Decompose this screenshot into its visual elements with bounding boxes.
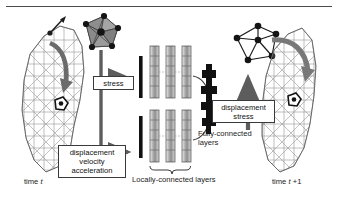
stress-input-box: stress: [93, 76, 134, 90]
lower-locally-connected-columns: [150, 110, 191, 162]
fully-connected-layers-label: Fully-connected layers: [198, 129, 252, 147]
layer-column: [150, 46, 159, 98]
input-feature-acceleration: acceleration: [62, 166, 122, 175]
upper-input-bar: [139, 56, 143, 98]
feature-flow-arrows: [101, 50, 128, 152]
layer-column: [150, 110, 159, 162]
input-features-box: displacement velocity acceleration: [58, 145, 126, 178]
outline-node-graph: [234, 23, 280, 64]
diagram-svg: [0, 0, 338, 200]
time-t-plus-1-label: time t +1: [272, 177, 301, 186]
locally-connected-layers-label: Locally-connected layers: [132, 175, 216, 184]
shaded-polyhedron-graph: [83, 13, 121, 50]
output-feature-stress: stress: [216, 112, 271, 121]
output-features-box: displacement stress: [212, 100, 275, 123]
upper-locally-connected-columns: [150, 46, 191, 98]
layer-column: [182, 46, 191, 98]
figure-canvas: stress displacement velocity acceleratio…: [0, 0, 338, 200]
layer-column: [182, 110, 191, 162]
layer-column: [166, 110, 175, 162]
stress-input-line: stress: [97, 79, 130, 88]
input-feature-displacement: displacement: [62, 148, 122, 157]
layer-column: [166, 46, 175, 98]
input-feature-velocity: velocity: [62, 157, 122, 166]
lower-input-bar: [139, 116, 143, 158]
fully-connected-block: [201, 64, 217, 134]
time-t-label: time t: [24, 177, 43, 186]
locally-connected-brace: [150, 166, 191, 174]
output-feature-displacement: displacement: [216, 103, 271, 112]
